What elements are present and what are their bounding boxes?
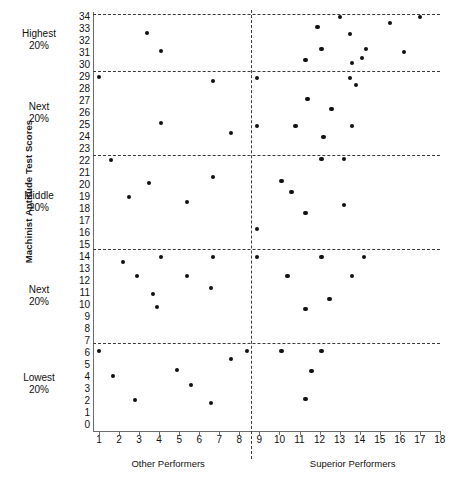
band-label-line1: Middle xyxy=(8,190,70,202)
data-point xyxy=(121,260,125,264)
band-divider xyxy=(93,343,440,344)
band-label-line1: Next xyxy=(8,284,70,296)
group-caption: Other Performers xyxy=(98,458,238,469)
chart-top-divider xyxy=(93,14,440,15)
data-point xyxy=(303,307,307,311)
y-tick-label: 9 xyxy=(68,312,90,322)
y-tick-label: 11 xyxy=(68,288,90,298)
data-point xyxy=(97,349,101,353)
x-tick-mark xyxy=(360,431,361,435)
x-tick-label: 14 xyxy=(350,434,370,446)
y-tick-label: 16 xyxy=(68,228,90,238)
x-tick-label: 11 xyxy=(290,434,310,446)
x-tick-label: 2 xyxy=(109,434,129,446)
data-point xyxy=(209,401,213,405)
data-point xyxy=(109,158,113,162)
data-point xyxy=(189,383,193,387)
data-point xyxy=(127,195,131,199)
y-tick-label: 10 xyxy=(68,300,90,310)
x-tick-mark xyxy=(300,431,301,435)
data-point xyxy=(327,297,331,301)
data-point xyxy=(350,274,354,278)
data-point xyxy=(111,374,115,378)
y-axis-tick-labels: 3433323130292827262524232221201918171615… xyxy=(68,0,90,483)
data-point xyxy=(354,83,358,87)
y-tick-label: 26 xyxy=(68,108,90,118)
y-tick-label: 25 xyxy=(68,120,90,130)
data-point xyxy=(229,357,233,361)
data-point xyxy=(348,76,352,80)
plot-area xyxy=(93,14,440,429)
data-point xyxy=(364,47,368,51)
band-label-line2: 20% xyxy=(8,384,70,396)
band-label-line1: Next xyxy=(8,101,70,113)
y-tick-label: 6 xyxy=(68,348,90,358)
data-point xyxy=(388,21,392,25)
x-tick-mark xyxy=(159,431,160,435)
data-point xyxy=(303,211,307,215)
y-tick-label: 27 xyxy=(68,96,90,106)
x-tick-mark xyxy=(420,431,421,435)
y-tick-label: 2 xyxy=(68,396,90,406)
data-point xyxy=(211,175,215,179)
band-label: Middle20% xyxy=(8,190,70,214)
y-tick-label: 24 xyxy=(68,132,90,142)
x-tick-mark xyxy=(99,431,100,435)
x-tick-label: 8 xyxy=(229,434,249,446)
x-tick-label: 1 xyxy=(89,434,109,446)
x-tick-label: 18 xyxy=(430,434,450,446)
band-label: Next20% xyxy=(8,101,70,125)
y-tick-label: 34 xyxy=(68,12,90,22)
x-tick-label: 5 xyxy=(169,434,189,446)
y-tick-label: 8 xyxy=(68,324,90,334)
data-point xyxy=(151,292,155,296)
x-tick-mark xyxy=(119,431,120,435)
x-axis-tick-labels: 123456789101112131415161718 xyxy=(0,434,465,450)
x-tick-mark xyxy=(179,431,180,435)
y-tick-label: 5 xyxy=(68,360,90,370)
y-tick-label: 17 xyxy=(68,216,90,226)
x-tick-mark xyxy=(320,431,321,435)
band-label-line2: 20% xyxy=(8,40,70,52)
y-tick-label: 23 xyxy=(68,144,90,154)
y-tick-label: 33 xyxy=(68,24,90,34)
x-tick-mark xyxy=(139,431,140,435)
x-tick-mark xyxy=(279,431,280,435)
band-label: Highest20% xyxy=(8,28,70,52)
band-divider xyxy=(93,71,440,72)
y-tick-label: 32 xyxy=(68,36,90,46)
data-point xyxy=(329,107,333,111)
band-label: Next20% xyxy=(8,284,70,308)
x-tick-label: 15 xyxy=(370,434,390,446)
data-point xyxy=(342,203,346,207)
data-point xyxy=(279,349,283,353)
data-point xyxy=(159,121,163,125)
data-point xyxy=(229,131,233,135)
data-point xyxy=(319,349,323,353)
band-label-line2: 20% xyxy=(8,296,70,308)
band-divider xyxy=(93,155,440,156)
data-point xyxy=(321,135,325,139)
y-tick-label: 15 xyxy=(68,240,90,250)
x-tick-mark xyxy=(219,431,220,435)
x-tick-label: 3 xyxy=(129,434,149,446)
y-tick-label: 1 xyxy=(68,408,90,418)
band-label-line2: 20% xyxy=(8,202,70,214)
y-tick-label: 29 xyxy=(68,72,90,82)
data-point xyxy=(155,305,159,309)
y-tick-label: 0 xyxy=(68,420,90,430)
band-label-line1: Highest xyxy=(8,28,70,40)
x-tick-label: 13 xyxy=(330,434,350,446)
data-point xyxy=(145,31,149,35)
group-caption: Superior Performers xyxy=(283,458,423,469)
data-point xyxy=(245,349,249,353)
y-tick-label: 19 xyxy=(68,192,90,202)
data-point xyxy=(350,61,354,65)
data-point xyxy=(338,15,342,19)
data-point xyxy=(211,79,215,83)
data-point xyxy=(209,286,213,290)
data-point xyxy=(147,181,151,185)
band-label: Lowest20% xyxy=(8,372,70,396)
data-point xyxy=(309,369,313,373)
data-point xyxy=(319,157,323,161)
